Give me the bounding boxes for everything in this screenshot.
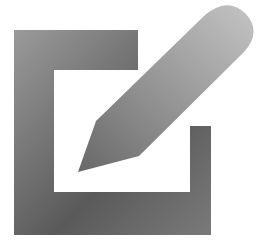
edit-icon-graphic	[0, 0, 259, 252]
edit-icon	[0, 0, 259, 252]
